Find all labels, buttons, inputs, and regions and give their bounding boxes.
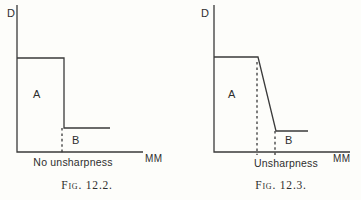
fig1-y-axis-label: D <box>7 7 15 19</box>
scanned-book-page: D A B MM No unsharpness Fig. 12.2. D A B… <box>0 0 361 200</box>
fig1-density-profile <box>17 58 110 128</box>
diagram-canvas <box>0 0 361 200</box>
fig2-annotation: Unsharpness <box>246 158 326 170</box>
fig1-axes <box>17 5 143 152</box>
fig2-y-axis-label: D <box>201 7 209 19</box>
fig1-region-b-label: B <box>72 134 79 146</box>
fig1-region-a-label: A <box>33 88 40 100</box>
fig1-x-axis-label: MM <box>145 153 163 164</box>
fig1-annotation: No unsharpness <box>30 157 116 169</box>
fig2-caption: Fig. 12.3. <box>243 179 319 191</box>
fig2-axes <box>214 5 350 152</box>
fig1-caption: Fig. 12.2. <box>49 179 125 191</box>
fig2-x-axis-label: MM <box>333 153 351 164</box>
fig2-region-b-label: B <box>285 134 292 146</box>
fig2-region-a-label: A <box>228 88 235 100</box>
